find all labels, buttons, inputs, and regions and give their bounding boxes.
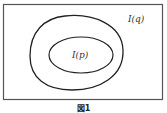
inner-set-label: I(p) (71, 50, 89, 60)
figure-diagram: I(q) I(p) (0, 0, 167, 113)
outer-set-label: I(q) (127, 14, 145, 24)
figure-caption: 図1 (0, 102, 167, 113)
